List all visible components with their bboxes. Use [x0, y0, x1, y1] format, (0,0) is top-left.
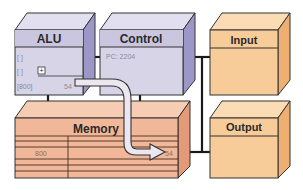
memory-label: Memory: [73, 122, 119, 136]
memory-block: Memory 800 54: [15, 101, 190, 178]
memory-top-face: [15, 101, 190, 118]
architecture-diagram: ALU [ ] [ ] + [800] 54 Control PC: 2204 …: [0, 0, 303, 190]
alu-register-3: [800]: [17, 83, 33, 91]
control-label: Control: [120, 32, 163, 46]
alu-label: ALU: [37, 32, 62, 46]
memory-address: 800: [35, 150, 47, 157]
plus-symbol: +: [39, 67, 43, 74]
alu-top-face: [15, 13, 95, 30]
output-top-face: [210, 101, 290, 118]
output-label: Output: [226, 121, 262, 133]
control-top-face: [100, 13, 195, 30]
output-block: Output: [210, 101, 290, 178]
input-top-face: [210, 13, 290, 30]
alu-register-2: [ ]: [17, 68, 23, 76]
memory-value: 54: [165, 150, 173, 157]
alu-output-value: 54: [64, 83, 72, 90]
program-counter-text: PC: 2204: [106, 53, 135, 60]
input-label: Input: [231, 34, 258, 46]
alu-register-1: [ ]: [17, 54, 23, 62]
input-block: Input: [210, 13, 290, 95]
